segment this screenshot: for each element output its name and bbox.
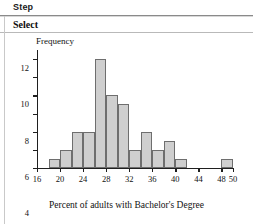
y-axis-tick: 8 xyxy=(33,95,37,96)
x-axis-line xyxy=(37,168,234,169)
y-axis-tick-label: 6 xyxy=(25,172,29,182)
x-axis-tick xyxy=(233,168,234,172)
x-axis-tick xyxy=(37,168,38,172)
x-axis-tick-label: 32 xyxy=(125,174,134,184)
x-axis-tick-label: 16 xyxy=(33,174,42,184)
plot-area: 02468101216202428323640444850 xyxy=(37,50,233,168)
y-axis-title: Frequency xyxy=(36,36,74,46)
y-axis-tick: 10 xyxy=(33,77,37,78)
y-axis-tick-label: 8 xyxy=(25,136,29,146)
histogram-bar xyxy=(175,159,187,168)
histogram-bar xyxy=(60,150,72,168)
x-axis-tick xyxy=(129,168,130,172)
histogram-chart: Frequency 02468101216202428323640444850 … xyxy=(0,33,253,224)
y-axis-tick-label: 12 xyxy=(21,63,30,73)
y-axis-tick: 4 xyxy=(33,132,37,133)
x-axis-title: Percent of adults with Bachelor's Degree xyxy=(0,200,253,210)
select-heading: Select xyxy=(13,19,38,30)
x-axis-tick-label: 28 xyxy=(102,174,111,184)
x-axis-tick xyxy=(106,168,107,172)
x-axis-tick xyxy=(60,168,61,172)
x-axis-tick-label: 50 xyxy=(229,174,238,184)
histogram-bar xyxy=(72,132,84,168)
x-axis-tick-label: 44 xyxy=(194,174,203,184)
y-axis-tick: 12 xyxy=(33,59,37,60)
x-axis-tick xyxy=(83,168,84,172)
x-axis-tick xyxy=(198,168,199,172)
x-axis-tick-label: 48 xyxy=(217,174,226,184)
histogram-bar xyxy=(164,141,176,168)
histogram-bar xyxy=(95,59,107,168)
histogram-bar xyxy=(152,150,164,168)
histogram-bar xyxy=(83,132,95,168)
y-axis-tick: 2 xyxy=(33,150,37,151)
x-axis-tick xyxy=(221,168,222,172)
histogram-bar xyxy=(129,150,141,168)
x-axis-tick xyxy=(175,168,176,172)
y-axis-tick: 6 xyxy=(33,114,37,115)
histogram-bar xyxy=(221,159,233,168)
histogram-bar xyxy=(141,132,153,168)
histogram-bar xyxy=(49,159,61,168)
histogram-bar xyxy=(106,95,118,168)
x-axis-tick-label: 24 xyxy=(79,174,88,184)
screenshot-root: Step Select Frequency 024681012162024283… xyxy=(0,0,253,224)
histogram-bar xyxy=(118,104,130,168)
x-axis-tick-label: 36 xyxy=(148,174,157,184)
x-axis-tick-label: 20 xyxy=(56,174,65,184)
y-axis-tick-label: 10 xyxy=(21,99,30,109)
x-axis-tick-label: 40 xyxy=(171,174,180,184)
step-heading: Step xyxy=(13,2,33,12)
x-axis-tick xyxy=(152,168,153,172)
header-divider-shadow xyxy=(0,16,253,17)
